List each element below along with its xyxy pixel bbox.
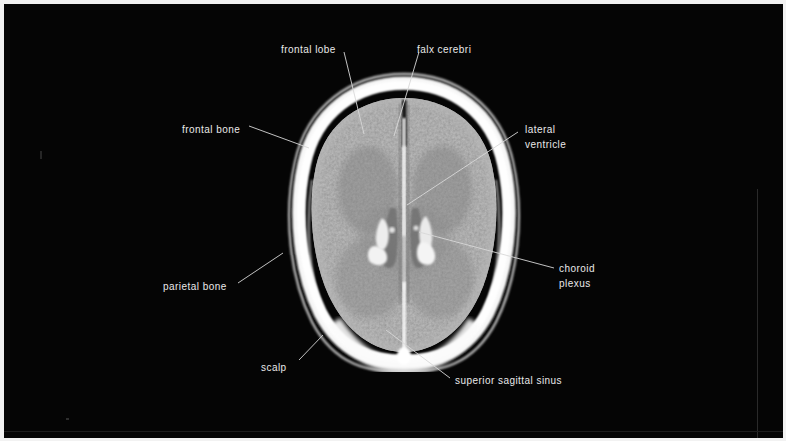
leader-scalp [299, 335, 323, 360]
leader-parietal-bone [238, 253, 283, 283]
leader-frontal-lobe [344, 52, 364, 134]
label-text: frontal lobe [281, 42, 336, 57]
leader-falx-cerebri [394, 52, 419, 136]
label-superior-sagittal-sinus: superior sagittal sinus [455, 373, 562, 388]
label-text: parietal bone [163, 279, 227, 294]
ct-figure: frontal lobefalx cerebrifrontal bonelate… [0, 0, 786, 441]
label-text: scalp [261, 360, 287, 375]
leader-superior-sagittal-sinus [386, 330, 450, 378]
leader-lines [4, 4, 783, 438]
label-text: frontal bone [182, 122, 240, 137]
label-text: lateral [525, 122, 566, 137]
label-text: ventricle [525, 137, 566, 152]
label-lateral-ventricle: lateralventricle [525, 122, 566, 152]
label-text: plexus [559, 276, 595, 291]
label-text: falx cerebri [417, 42, 471, 57]
label-text: superior sagittal sinus [455, 373, 562, 388]
leader-choroid-plexus [419, 232, 554, 268]
ct-figure-plate: frontal lobefalx cerebrifrontal bonelate… [4, 4, 783, 438]
leader-lateral-ventricle [407, 132, 518, 205]
label-text: choroid [559, 261, 595, 276]
label-choroid-plexus: choroidplexus [559, 261, 595, 291]
label-falx-cerebri: falx cerebri [417, 42, 471, 57]
label-frontal-bone: frontal bone [182, 122, 240, 137]
label-parietal-bone: parietal bone [163, 279, 227, 294]
leader-frontal-bone [249, 126, 309, 148]
label-scalp: scalp [261, 360, 287, 375]
label-frontal-lobe: frontal lobe [281, 42, 336, 57]
